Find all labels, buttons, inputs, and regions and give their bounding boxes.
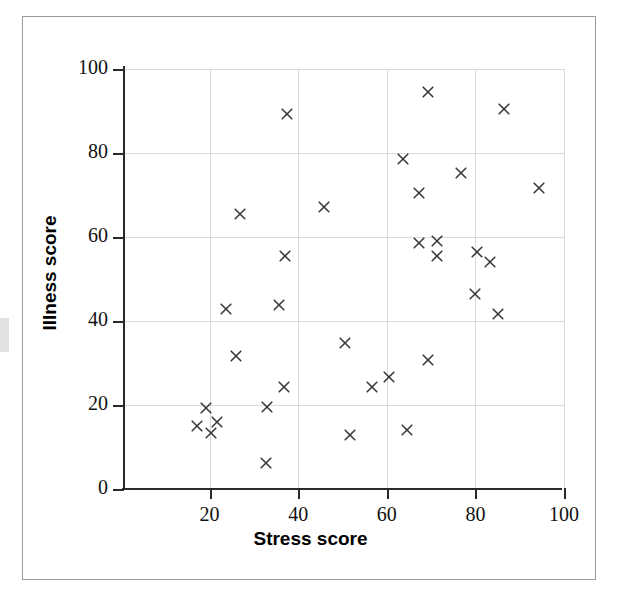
gridline-horizontal	[121, 69, 564, 70]
data-point-marker	[190, 419, 204, 433]
x-axis-tick-label: 60	[362, 503, 412, 526]
data-point-marker	[430, 234, 444, 248]
gridline-horizontal	[121, 153, 564, 154]
data-point-marker	[338, 336, 352, 350]
gridline-vertical	[298, 69, 299, 489]
y-axis-line	[123, 66, 125, 490]
data-point-marker	[412, 236, 426, 250]
y-axis-tick-label: 0	[62, 476, 108, 499]
x-axis-tick-label: 40	[273, 503, 323, 526]
data-point-marker	[219, 302, 233, 316]
data-point-marker	[421, 85, 435, 99]
data-point-marker	[277, 380, 291, 394]
data-point-marker	[210, 415, 224, 429]
data-point-marker	[400, 423, 414, 437]
data-point-marker	[278, 249, 292, 263]
data-point-marker	[396, 152, 410, 166]
data-point-marker	[491, 307, 505, 321]
data-point-marker	[532, 181, 546, 195]
data-point-marker	[468, 287, 482, 301]
data-point-marker	[421, 353, 435, 367]
gridline-horizontal	[121, 405, 564, 406]
y-axis-tick-label: 20	[62, 392, 108, 415]
data-point-marker	[343, 428, 357, 442]
gridline-horizontal	[121, 237, 564, 238]
scatter-plot: 02040608010020406080100 Stress score Ill…	[0, 0, 621, 602]
gridline-vertical	[387, 69, 388, 489]
gridline-vertical	[475, 69, 476, 489]
data-point-marker	[483, 255, 497, 269]
x-axis-tick-label: 80	[450, 503, 500, 526]
data-point-marker	[272, 298, 286, 312]
y-axis-tick-label: 80	[62, 140, 108, 163]
data-point-marker	[365, 380, 379, 394]
data-point-marker	[233, 207, 247, 221]
x-axis-tick	[564, 488, 566, 499]
data-point-marker	[317, 200, 331, 214]
data-point-marker	[199, 401, 213, 415]
data-point-marker	[454, 166, 468, 180]
y-axis-tick-label: 40	[62, 308, 108, 331]
data-point-marker	[430, 249, 444, 263]
data-point-marker	[412, 186, 426, 200]
data-point-marker	[260, 400, 274, 414]
y-axis-title: Illness score	[39, 163, 61, 383]
data-point-marker	[382, 370, 396, 384]
y-axis-tick-label: 100	[62, 56, 108, 79]
x-axis-title: Stress score	[0, 528, 621, 550]
data-point-marker	[280, 107, 294, 121]
x-axis-line	[122, 488, 562, 490]
data-point-marker	[259, 456, 273, 470]
gridline-vertical	[564, 69, 565, 489]
y-axis-tick-label: 60	[62, 224, 108, 247]
data-point-marker	[229, 349, 243, 363]
x-axis-tick-label: 20	[185, 503, 235, 526]
x-axis-tick-label: 100	[539, 503, 589, 526]
data-point-marker	[497, 102, 511, 116]
